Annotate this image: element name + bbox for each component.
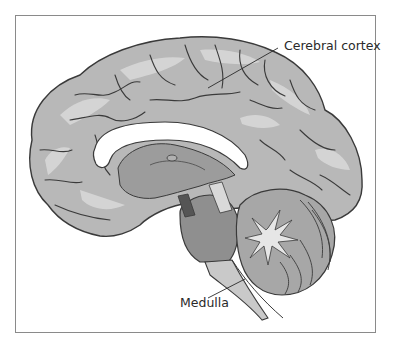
cerebellum bbox=[236, 189, 334, 295]
medulla-label: Medulla bbox=[180, 295, 229, 310]
cerebral-cortex-label: Cerebral cortex bbox=[284, 38, 381, 53]
